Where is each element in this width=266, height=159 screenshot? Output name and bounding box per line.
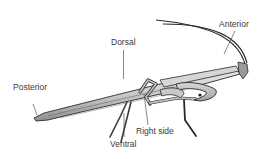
label-right-side: Right side [136,127,174,136]
head [238,62,248,79]
label-dorsal: Dorsal [111,38,136,47]
mantis-orientation-diagram: Dorsal Anterior Posterior Ventral Right … [0,0,266,159]
label-posterior: Posterior [13,83,47,92]
label-ventral: Ventral [110,140,136,149]
posterior-leader [33,104,37,115]
label-anterior: Anterior [219,20,249,29]
anterior-leader [224,31,235,54]
hind-legs [110,102,131,142]
